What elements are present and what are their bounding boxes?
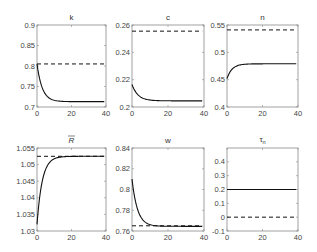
x-tick-label: 20	[164, 233, 172, 242]
x-tick-label: 0	[35, 109, 39, 118]
panel-title-c: c	[166, 13, 170, 22]
panel-title-w: w	[164, 136, 171, 145]
y-tick-label: 0.24	[115, 48, 130, 57]
axes-box	[37, 148, 106, 231]
y-tick-label: 0.75	[20, 82, 35, 91]
panel-c: c 0.20.220.240.2602040	[115, 13, 208, 118]
x-tick-label: 0	[130, 109, 134, 118]
y-tick-label: 0.78	[115, 206, 130, 215]
x-tick-label: 20	[67, 233, 75, 242]
x-tick-label: 0	[225, 233, 229, 242]
figure-grid: k 0.70.750.80.850.902040 c 0.20.220.240.…	[0, 0, 317, 252]
transition-line	[227, 64, 296, 79]
y-tick-label: 0.7	[25, 103, 35, 112]
x-tick-label: 20	[258, 233, 266, 242]
y-tick-label: 0.22	[115, 75, 130, 84]
axes-box	[132, 25, 204, 107]
y-tick-label: 0.45	[210, 75, 225, 84]
panel-title-k: k	[70, 13, 75, 22]
x-tick-label: 40	[294, 109, 302, 118]
panel-k: k 0.70.750.80.850.902040	[20, 13, 110, 118]
y-tick-label: 0.84	[115, 144, 130, 153]
transition-line	[132, 179, 202, 226]
y-tick-label: 0.3	[215, 171, 225, 180]
x-tick-label: 20	[164, 109, 172, 118]
axes-box	[37, 25, 106, 107]
x-tick-label: 40	[200, 233, 208, 242]
y-tick-label: 1.045	[16, 177, 35, 186]
y-tick-label: 0.2	[215, 185, 225, 194]
transition-line	[37, 156, 104, 224]
transition-line	[132, 84, 202, 100]
y-tick-label: -0.1	[212, 227, 225, 236]
y-tick-label: 0.76	[115, 227, 130, 236]
y-tick-label: 0.2	[120, 103, 130, 112]
y-tick-label: 0	[221, 213, 225, 222]
x-tick-label: 20	[258, 109, 266, 118]
x-tick-label: 40	[102, 109, 110, 118]
y-tick-label: 0.55	[210, 21, 225, 30]
panel-w: w 0.760.780.80.820.8402040	[115, 136, 208, 242]
x-tick-label: 40	[200, 109, 208, 118]
transition-line	[37, 64, 104, 102]
y-tick-label: 1.035	[16, 210, 35, 219]
axes-box	[132, 148, 204, 231]
y-tick-label: 1.05	[20, 160, 35, 169]
x-tick-label: 0	[35, 233, 39, 242]
y-tick-label: 1.04	[20, 193, 35, 202]
y-tick-label: 0.5	[215, 48, 225, 57]
x-tick-label: 20	[67, 109, 75, 118]
y-tick-label: 0.4	[215, 157, 225, 166]
x-tick-label: 40	[294, 233, 302, 242]
panel-r-bar: R 1.031.0351.041.0451.051.05502040	[16, 136, 110, 242]
y-tick-label: 0.8	[120, 185, 130, 194]
y-tick-label: 0.85	[20, 41, 35, 50]
panel-tau-n: τn -0.100.10.20.30.402040	[212, 135, 302, 242]
y-tick-label: 0.9	[25, 21, 35, 30]
x-tick-label: 40	[102, 233, 110, 242]
x-tick-label: 0	[130, 233, 134, 242]
y-tick-label: 0.82	[115, 164, 130, 173]
panel-title-n: n	[260, 13, 264, 22]
y-tick-label: 0.1	[215, 199, 225, 208]
y-tick-label: 1.055	[16, 144, 35, 153]
y-tick-label: 0.26	[115, 21, 130, 30]
y-tick-label: 1.03	[20, 227, 35, 236]
y-tick-label: 0.8	[25, 62, 35, 71]
panel-title-r-bar: R	[69, 136, 75, 145]
y-tick-label: 0.4	[215, 103, 225, 112]
panel-n: n 0.40.450.50.5502040	[210, 13, 302, 118]
panel-title-tau: τn	[259, 135, 265, 145]
x-tick-label: 0	[225, 109, 229, 118]
